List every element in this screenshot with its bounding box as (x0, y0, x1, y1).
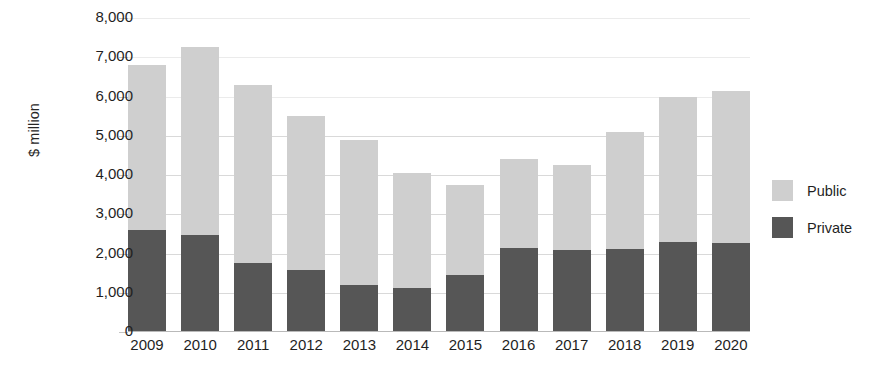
bar-segment-public[interactable] (553, 165, 591, 250)
x-axis-label: 2016 (500, 336, 538, 353)
y-axis-title: $ million (26, 70, 42, 190)
x-axis-label: 2012 (287, 336, 325, 353)
x-axis-label: 2011 (234, 336, 272, 353)
bar-segment-private[interactable] (500, 248, 538, 332)
bar-segment-public[interactable] (234, 85, 272, 264)
x-axis-label: 2014 (393, 336, 431, 353)
legend-label: Private (807, 220, 852, 236)
bar-group[interactable] (234, 18, 272, 332)
bar-segment-public[interactable] (659, 97, 697, 243)
plot-area (128, 18, 750, 332)
bar-group[interactable] (500, 18, 538, 332)
x-axis-label: 2017 (553, 336, 591, 353)
x-axis-label: 2019 (659, 336, 697, 353)
bar-segment-public[interactable] (340, 140, 378, 285)
x-axis-label: 2013 (340, 336, 378, 353)
bar-group[interactable] (553, 18, 591, 332)
bar-group[interactable] (446, 18, 484, 332)
bar-segment-private[interactable] (181, 235, 219, 332)
bar-segment-private[interactable] (128, 230, 166, 332)
legend-item-public[interactable]: Public (772, 180, 852, 201)
x-axis-label: 2015 (446, 336, 484, 353)
x-axis-label: 2020 (712, 336, 750, 353)
x-axis-label: 2010 (181, 336, 219, 353)
bar-segment-private[interactable] (606, 249, 644, 332)
bar-group[interactable] (340, 18, 378, 332)
bar-group[interactable] (659, 18, 697, 332)
bar-segment-public[interactable] (181, 47, 219, 235)
bar-group[interactable] (181, 18, 219, 332)
x-axis-line (128, 331, 750, 332)
bar-group[interactable] (393, 18, 431, 332)
x-axis-labels: 2009201020112012201320142015201620172018… (128, 336, 750, 353)
bar-segment-private[interactable] (659, 242, 697, 332)
bar-segment-public[interactable] (128, 65, 166, 230)
bar-segment-private[interactable] (340, 285, 378, 332)
bar-series-container (128, 18, 750, 332)
x-axis-label: 2018 (606, 336, 644, 353)
bar-segment-public[interactable] (606, 132, 644, 249)
legend-swatch-icon (772, 217, 793, 238)
chart-legend: PublicPrivate (772, 180, 852, 254)
x-axis-label: 2009 (128, 336, 166, 353)
bar-segment-private[interactable] (553, 250, 591, 332)
bar-segment-public[interactable] (446, 185, 484, 275)
bar-group[interactable] (606, 18, 644, 332)
bar-segment-private[interactable] (287, 270, 325, 332)
legend-label: Public (807, 183, 847, 199)
bar-segment-public[interactable] (393, 173, 431, 288)
bar-segment-private[interactable] (393, 288, 431, 332)
bar-segment-private[interactable] (712, 243, 750, 332)
legend-swatch-icon (772, 180, 793, 201)
bar-segment-public[interactable] (287, 116, 325, 270)
bar-group[interactable] (128, 18, 166, 332)
bar-group[interactable] (287, 18, 325, 332)
bar-segment-public[interactable] (500, 159, 538, 247)
bar-group[interactable] (712, 18, 750, 332)
bar-segment-private[interactable] (446, 275, 484, 332)
bar-segment-private[interactable] (234, 263, 272, 332)
legend-item-private[interactable]: Private (772, 217, 852, 238)
stacked-bar-chart: $ million 200920102011201220132014201520… (0, 0, 875, 372)
bar-segment-public[interactable] (712, 91, 750, 243)
